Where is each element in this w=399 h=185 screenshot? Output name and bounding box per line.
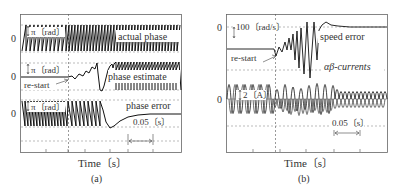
label-alpha-beta-currents: αβ-currents <box>324 61 371 72</box>
scale-bar-label-b: 0.05〔s〕 <box>332 118 369 128</box>
scale-label-currents: 2〔A〕 <box>243 90 272 100</box>
x-ticks <box>253 149 360 152</box>
restart-label-a: re-start <box>24 80 50 90</box>
scale-bar-b <box>334 130 360 136</box>
label-speed-error: speed error <box>320 31 365 42</box>
label-actual-phase: actual phase <box>118 31 168 42</box>
scale-bar-label-a: 0.05〔s〕 <box>133 117 170 127</box>
x-ticks <box>46 149 153 152</box>
figure-canvas: 0 π〔rad〕 actual phase 0 π〔rad〕 phase est… <box>0 0 399 185</box>
restart-arrow <box>56 79 68 84</box>
panel-a: 0 π〔rad〕 actual phase 0 π〔rad〕 phase est… <box>11 14 182 185</box>
label-phase-error: phase error <box>126 100 171 111</box>
caption-a: (a) <box>91 173 102 185</box>
x-axis-label-a: Time〔s〕 <box>78 157 127 169</box>
zero-label-phase-estimate: 0 <box>11 71 16 82</box>
panel-b: 0 100〔rad/s〕 speed error re-start αβ-cur… <box>217 14 388 185</box>
zero-label-phase-error: 0 <box>11 108 16 119</box>
caption-b: (b) <box>298 173 310 185</box>
zero-label-speed-error: 0 <box>217 22 222 33</box>
scale-bar-a <box>128 134 153 145</box>
scale-label-phase-error: π〔rad〕 <box>31 102 65 112</box>
scale-label-actual-phase: π〔rad〕 <box>31 27 65 37</box>
figure: 0 π〔rad〕 actual phase 0 π〔rad〕 phase est… <box>0 0 399 185</box>
label-phase-estimate: phase estimate <box>108 71 167 82</box>
x-axis-label-b: Time〔s〕 <box>284 157 333 169</box>
zero-label-currents: 0 <box>217 94 222 105</box>
phase-estimate-lower <box>116 83 176 90</box>
scale-label-phase-estimate: π〔rad〕 <box>31 65 65 75</box>
scale-label-speed-error: 100〔rad/s〕 <box>236 22 285 32</box>
restart-label-b: re-start <box>231 53 257 63</box>
zero-label-actual-phase: 0 <box>11 33 16 44</box>
